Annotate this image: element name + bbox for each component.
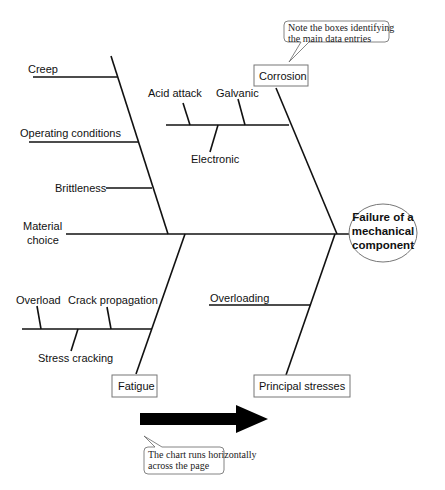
callout-bottom-line-1: The chart runs horizontally xyxy=(148,449,257,460)
category-corrosion: Corrosion xyxy=(259,70,307,82)
twig-acid-attack xyxy=(183,103,190,125)
bone-corrosion xyxy=(276,88,337,234)
label-galvanic: Galvanic xyxy=(216,87,259,99)
label-material-choice-2: choice xyxy=(27,234,59,246)
callout-top-line-2: the main data entries xyxy=(288,33,371,44)
label-brittleness: Brittleness xyxy=(55,182,107,194)
twig-stress-cracking xyxy=(71,329,78,351)
category-principal-stresses: Principal stresses xyxy=(259,380,346,392)
label-crack-propagation: Crack propagation xyxy=(68,294,158,306)
category-fatigue: Fatigue xyxy=(118,380,155,392)
bone-material xyxy=(111,56,168,234)
direction-arrow-icon xyxy=(140,405,268,433)
label-overloading: Overloading xyxy=(210,292,269,304)
label-material-choice-1: Material xyxy=(23,220,62,232)
label-overload: Overload xyxy=(16,294,61,306)
twig-crack-propagation xyxy=(107,307,111,329)
label-stress-cracking: Stress cracking xyxy=(38,352,113,364)
callout-bottom-line-2: across the page xyxy=(148,460,210,471)
twig-galvanic xyxy=(238,99,245,125)
callout-bottom: The chart runs horizontally across the p… xyxy=(144,436,257,474)
twig-electronic xyxy=(210,125,218,152)
effect-line-3: component xyxy=(352,239,414,251)
callout-top-line-1: Note the boxes identifying xyxy=(288,22,394,33)
label-creep: Creep xyxy=(28,63,58,75)
label-acid-attack: Acid attack xyxy=(148,87,202,99)
label-operating-conditions: Operating conditions xyxy=(20,127,121,139)
callout-top: Note the boxes identifying the main data… xyxy=(284,21,394,62)
label-electronic: Electronic xyxy=(191,153,240,165)
effect-line-2: mechanical xyxy=(352,225,415,237)
effect-line-1: Failure of a xyxy=(352,211,414,223)
fishbone-diagram: Creep Operating conditions Brittleness M… xyxy=(0,0,445,490)
twig-overload xyxy=(37,306,41,329)
